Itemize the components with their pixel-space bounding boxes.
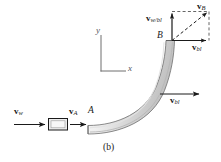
label-point-a: A: [88, 106, 94, 116]
label-axis-y: y: [96, 26, 100, 35]
v-b-resultant-arrow: [172, 13, 207, 41]
label-v-a: vA: [69, 107, 77, 117]
nozzle-inner: [51, 121, 65, 128]
figure-panel-b: vw vA A B vw/bl vB vbl vbl y x (b): [0, 0, 221, 162]
label-v-w-bl: vw/bl: [146, 14, 162, 24]
label-axis-x: x: [128, 64, 132, 73]
inlet-jet-group: [14, 119, 86, 131]
label-v-b: vB: [197, 2, 205, 12]
figure-caption: (b): [103, 143, 114, 153]
label-v-bl-lower: vbl: [170, 96, 180, 106]
label-v-w: vw: [14, 107, 23, 117]
velocity-triangle-at-B: [172, 12, 209, 41]
label-v-bl-upper: vbl: [192, 43, 202, 53]
figure-vector-graphic: [0, 0, 221, 162]
label-point-b: B: [157, 31, 163, 41]
coordinate-axes: [101, 35, 127, 72]
